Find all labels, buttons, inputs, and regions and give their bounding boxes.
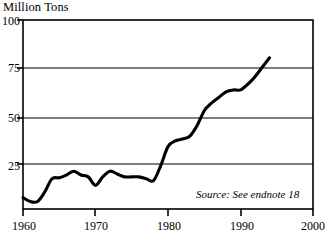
plot-frame — [23, 20, 313, 209]
source-note: Source: See endnote 18 — [196, 188, 299, 201]
chart-axis-title: Million Tons — [3, 0, 69, 14]
y-axis-ticks — [17, 20, 23, 164]
y-tick-label-75: 75 — [0, 62, 20, 74]
plot-area — [0, 0, 332, 245]
x-tick-label-2000: 2000 — [294, 220, 332, 232]
y-tick-label-100: 100 — [0, 15, 20, 27]
x-axis-ticks — [23, 209, 313, 216]
chart-figure: Million Tons 100 75 50 25 1960 1970 1980… — [0, 0, 332, 245]
x-tick-label-1970: 1970 — [77, 220, 115, 232]
x-tick-label-1980: 1980 — [150, 220, 188, 232]
y-tick-label-25: 25 — [0, 160, 20, 172]
x-tick-label-1960: 1960 — [5, 220, 43, 232]
x-tick-label-1990: 1990 — [223, 220, 261, 232]
y-tick-label-50: 50 — [0, 112, 20, 124]
data-series-line — [23, 58, 270, 202]
